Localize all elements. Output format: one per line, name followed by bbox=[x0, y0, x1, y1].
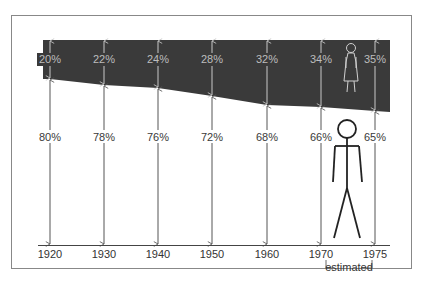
year-label: 1970 bbox=[309, 248, 333, 260]
women-percent-label: 35% bbox=[364, 53, 386, 65]
women-percent-label: 34% bbox=[310, 53, 332, 65]
women-percent-label: 32% bbox=[256, 53, 278, 65]
women-area bbox=[43, 40, 390, 112]
women-percent-label: 20% bbox=[39, 53, 61, 65]
men-percent-label: 76% bbox=[147, 131, 169, 143]
estimated-bracket: estimated bbox=[325, 260, 373, 273]
estimated-label: estimated bbox=[325, 261, 373, 273]
male-figure-icon bbox=[333, 120, 362, 238]
women-percent-label: 24% bbox=[147, 53, 169, 65]
year-label: 1975 bbox=[363, 248, 387, 260]
women-percent-label: 28% bbox=[201, 53, 223, 65]
year-label: 1920 bbox=[38, 248, 62, 260]
men-percent-label: 78% bbox=[93, 131, 115, 143]
men-percent-labels: 80%78%76%72%68%66%65% bbox=[36, 130, 389, 143]
men-percent-label: 66% bbox=[310, 131, 332, 143]
year-label: 1930 bbox=[92, 248, 116, 260]
year-tick-labels: 1920193019401950196019701975 bbox=[38, 248, 387, 260]
men-percent-label: 65% bbox=[364, 131, 386, 143]
men-percent-label: 80% bbox=[39, 131, 61, 143]
men-percent-label: 72% bbox=[201, 131, 223, 143]
year-label: 1960 bbox=[255, 248, 279, 260]
men-percent-label: 68% bbox=[256, 131, 278, 143]
women-percent-label: 22% bbox=[93, 53, 115, 65]
chart-canvas: 20%22%24%28%32%34%35% 80%78%76%72%68%66%… bbox=[0, 0, 422, 293]
year-label: 1950 bbox=[200, 248, 224, 260]
year-label: 1940 bbox=[146, 248, 170, 260]
